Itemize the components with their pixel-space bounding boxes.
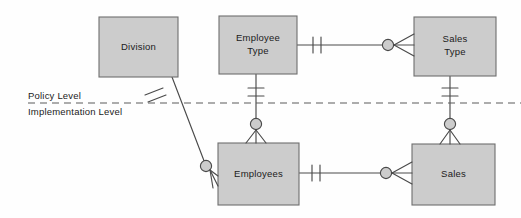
- cardinality-zero-or-many-employees-diagonal: [200, 160, 218, 188]
- er-diagram-canvas: Division Employee Type Sales Type Employ…: [0, 0, 521, 218]
- entity-sales[interactable]: Sales: [412, 144, 495, 205]
- entity-employees-label: Employees: [234, 168, 283, 179]
- connector-layer: [172, 45, 450, 173]
- entity-employee-type-label-line1: Employee: [236, 32, 280, 43]
- cardinality-zero-or-many-sales: [380, 162, 412, 184]
- policy-level-label: Policy Level: [28, 90, 81, 101]
- entity-employee-type-label-line2: Type: [247, 45, 268, 56]
- implementation-level-label: Implementation Level: [28, 106, 122, 117]
- entity-layer: Division Employee Type Sales Type Employ…: [99, 16, 496, 205]
- entity-division[interactable]: Division: [99, 17, 178, 77]
- entity-employee-type[interactable]: Employee Type: [219, 16, 297, 74]
- cardinality-zero-or-many-employees-vertical: [246, 118, 266, 143]
- entity-sales-type-label-line2: Type: [444, 46, 465, 57]
- entity-sales-type-label-line1: Sales: [443, 33, 468, 44]
- cardinality-one-and-only-one-division: [145, 88, 166, 102]
- entity-employees[interactable]: Employees: [218, 143, 299, 205]
- cardinality-zero-or-many-sales-vertical: [440, 118, 460, 144]
- entity-sales-label: Sales: [441, 168, 466, 179]
- cardinality-zero-or-many-sales-type: [382, 34, 414, 56]
- entity-sales-type[interactable]: Sales Type: [414, 17, 496, 76]
- connector-division-employees: [172, 77, 206, 166]
- entity-division-label: Division: [121, 41, 156, 52]
